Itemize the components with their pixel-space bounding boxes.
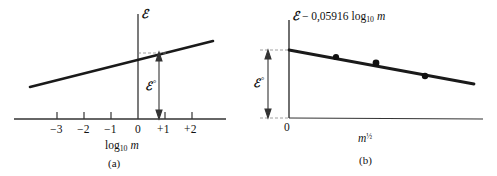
panel-a-standard-emf-annotation: ℰ° (145, 80, 156, 93)
panel-b-data-point (422, 73, 428, 79)
panel-a-x-axis-label: log10 m (105, 140, 139, 153)
panel-a-tick-label-zero: 0 (135, 124, 141, 136)
panel-b-x-axis (289, 118, 483, 119)
panel-a-x-axis-label-var: m (130, 139, 138, 151)
panel-b-y-axis-label-rest: − 0,05916 log (302, 10, 366, 22)
panel-a-caption: (a) (108, 158, 120, 169)
panel-b-trend-line (289, 50, 474, 84)
panel-b-standard-emf-annotation: ℰ° (253, 77, 264, 90)
panel-b-data-point (333, 54, 339, 60)
panel-a-x-axis-label-main: log (105, 139, 120, 151)
panel-a-standard-emf-symbol: ℰ (145, 80, 152, 92)
panel-b-y-axis-label: ℰ − 0,05916 log10 m (292, 10, 385, 24)
panel-b: ℰ − 0,05916 log10 m 0 m½ ℰ° (b) (246, 0, 497, 176)
panel-b-plot (246, 0, 497, 176)
panel-a-tick-label-neg1: −1 (104, 124, 117, 136)
panel-a-ticks (57, 112, 192, 119)
panel-b-standard-emf-degree: ° (260, 76, 264, 85)
panel-b-y-axis-label-var: m (377, 10, 385, 22)
panel-b-emf-standard-arrow (265, 50, 271, 118)
panel-a: ℰ −3 −2 −1 0 +1 +2 log10 m ℰ° (a) (0, 0, 246, 176)
panel-a-tick-label-neg2: −2 (77, 124, 90, 136)
panel-b-data-point (373, 60, 380, 67)
panel-b-caption: (b) (359, 155, 372, 166)
panel-b-standard-emf-symbol: ℰ (253, 77, 260, 89)
figure-root: ℰ −3 −2 −1 0 +1 +2 log10 m ℰ° (a) (0, 0, 497, 176)
panel-a-standard-emf-degree: ° (152, 79, 156, 88)
panel-a-tick-label-pos1: +1 (157, 124, 170, 136)
panel-b-origin-label: 0 (284, 122, 290, 134)
panel-a-trend-line (30, 41, 213, 87)
panel-b-x-axis-label: m½ (358, 133, 372, 145)
panel-b-x-axis-label-exp: ½ (366, 132, 372, 141)
panel-a-y-axis-label: ℰ (141, 8, 148, 20)
panel-a-tick-label-pos2: +2 (184, 124, 197, 136)
panel-b-y-axis-label-emf: ℰ (292, 9, 299, 23)
panel-a-x-axis-label-sub: 10 (120, 144, 128, 153)
panel-b-y-axis-label-sub: 10 (366, 15, 374, 24)
panel-a-tick-label-neg3: −3 (50, 124, 63, 136)
panel-a-emf-standard-arrow (156, 52, 162, 119)
